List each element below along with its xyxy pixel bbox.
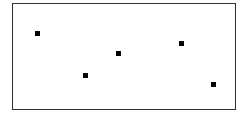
data-point bbox=[179, 41, 184, 46]
data-point bbox=[211, 82, 216, 87]
data-point bbox=[83, 73, 88, 78]
data-point bbox=[35, 31, 40, 36]
plot-area bbox=[12, 3, 236, 110]
data-point bbox=[116, 51, 121, 56]
